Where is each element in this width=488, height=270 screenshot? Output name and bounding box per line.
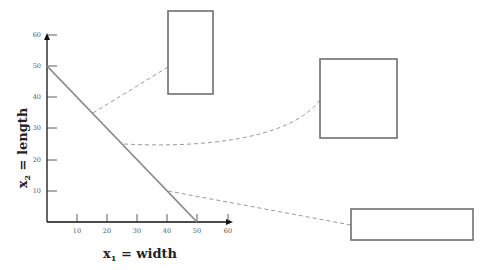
x-tick-label: 50	[193, 227, 201, 235]
x-tick-label: 60	[224, 227, 232, 235]
x-ticks	[77, 214, 228, 222]
x-tick-label: 20	[103, 227, 111, 235]
y-axis-arrow-icon	[44, 33, 50, 40]
connector-tall-rect	[93, 67, 168, 113]
y-tick-label: 10	[33, 187, 41, 195]
y-tick-label: 40	[33, 93, 41, 101]
diagram-canvas: 10 20 30 40 50 60 10 20 30 40 50 60 x1 =…	[0, 0, 488, 270]
x-tick-label: 30	[133, 227, 141, 235]
x-tick-label: 40	[163, 227, 171, 235]
tall-rectangle	[168, 11, 213, 94]
x-tick-label: 10	[73, 227, 81, 235]
y-tick-label: 50	[33, 62, 41, 70]
connector-square	[124, 100, 320, 145]
y-axis-label: x2 = length	[15, 107, 32, 188]
x-axis-label: x1 = width	[103, 246, 178, 263]
square-rectangle	[320, 59, 397, 138]
wide-rectangle	[351, 209, 473, 240]
y-tick-label: 20	[33, 156, 41, 164]
x-axis-arrow-icon	[226, 219, 233, 225]
y-ticks	[47, 35, 57, 191]
y-tick-label: 60	[33, 31, 41, 39]
y-tick-label: 30	[33, 124, 41, 132]
